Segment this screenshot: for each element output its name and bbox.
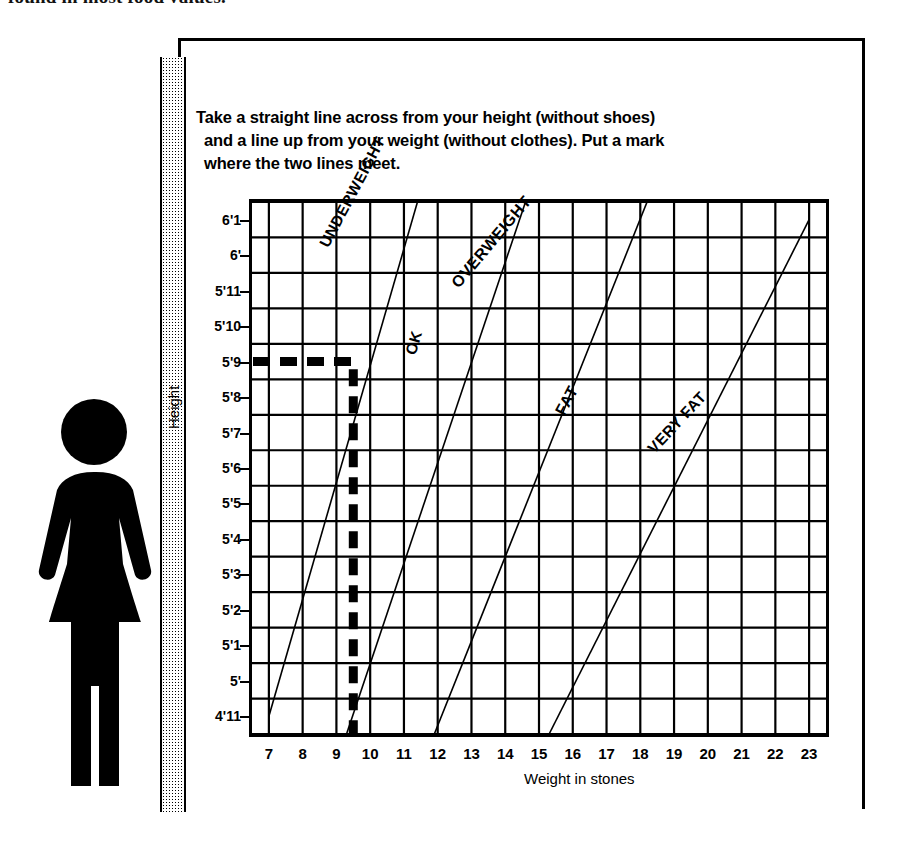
y-tick-mark — [240, 468, 249, 470]
y-tick-mark — [240, 681, 249, 683]
y-tick-mark — [240, 716, 249, 718]
y-tick-mark — [240, 503, 249, 505]
y-tick-label: 5'8 — [222, 389, 241, 405]
y-tick-label: 5'1 — [222, 637, 241, 653]
y-tick-mark — [240, 539, 249, 541]
y-tick-label: 5'4 — [222, 531, 241, 547]
x-tick-label: 16 — [564, 745, 581, 762]
x-tick-label: 15 — [531, 745, 548, 762]
y-tick-mark — [240, 326, 249, 328]
y-tick-mark — [240, 645, 249, 647]
instructions-text: Take a straight line across from your he… — [196, 106, 756, 175]
x-tick-label: 22 — [767, 745, 784, 762]
y-tick-label: 5'5 — [222, 495, 241, 511]
x-tick-label: 10 — [362, 745, 379, 762]
woman-silhouette-icon — [38, 390, 183, 790]
x-tick-label: 11 — [396, 745, 412, 762]
y-tick-label: 4'11 — [215, 708, 241, 724]
y-tick-label: 5'3 — [222, 566, 241, 582]
chart-grid-and-lines — [252, 202, 826, 734]
x-tick-label: 18 — [632, 745, 649, 762]
y-axis-labels: 6'1 6' 5'11 5'10 5'9 5'8 5'7 5'6 5'5 5'4… — [193, 199, 249, 737]
x-tick-label: 7 — [265, 745, 273, 762]
x-tick-label: 19 — [666, 745, 683, 762]
y-tick-label: 5'9 — [222, 354, 241, 370]
chart-plot-area: UNDERWEIGHT OK OVERWEIGHT FAT VERY FAT — [249, 199, 829, 737]
y-axis-title: Height — [165, 386, 182, 429]
height-weight-chart: UNDERWEIGHT OK OVERWEIGHT FAT VERY FAT 6… — [249, 199, 829, 737]
y-tick-mark — [240, 291, 249, 293]
y-tick-mark — [240, 574, 249, 576]
y-tick-label: 5'6 — [222, 460, 241, 476]
x-tick-label: 21 — [733, 745, 750, 762]
y-tick-mark — [240, 397, 249, 399]
x-tick-label: 13 — [463, 745, 480, 762]
x-axis-title: Weight in stones — [524, 770, 635, 787]
instruction-line-3: where the two lines meet. — [196, 152, 756, 175]
x-tick-label: 17 — [598, 745, 615, 762]
x-tick-label: 8 — [298, 745, 306, 762]
y-tick-mark — [240, 433, 249, 435]
x-tick-label: 14 — [497, 745, 514, 762]
y-tick-mark — [240, 610, 249, 612]
x-tick-label: 20 — [699, 745, 716, 762]
x-tick-label: 9 — [332, 745, 340, 762]
y-tick-label: 5'11 — [215, 283, 241, 299]
x-axis-labels: Weight in stones 78910111213141516171819… — [249, 737, 829, 777]
clipped-heading-text: found in most food values. — [8, 0, 428, 8]
x-tick-label: 23 — [801, 745, 818, 762]
y-tick-mark — [240, 362, 249, 364]
y-tick-mark — [240, 220, 249, 222]
instruction-line-1: Take a straight line across from your he… — [196, 106, 756, 129]
y-tick-label: 6'1 — [222, 212, 241, 228]
y-tick-label: 5'10 — [214, 318, 241, 334]
y-tick-mark — [240, 255, 249, 257]
instruction-line-2: and a line up from your weight (without … — [196, 129, 756, 152]
y-tick-label: 5'7 — [222, 425, 241, 441]
x-tick-label: 12 — [429, 745, 446, 762]
y-tick-label: 5'2 — [222, 602, 241, 618]
